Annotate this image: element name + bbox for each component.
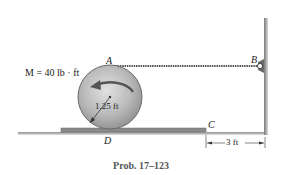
point-d-label: D [104,136,111,146]
radius-label: 1.25 ft [95,102,119,111]
figure-caption: Prob. 17–123 [0,160,282,171]
wall [264,18,268,135]
ground [18,132,267,135]
plank [61,128,206,132]
distance-label: 3 ft [226,138,238,147]
diagram-canvas [0,0,282,175]
point-b-label: B [251,55,257,65]
point-a-label: A [106,56,112,66]
moment-label: M = 40 lb · ft [25,68,79,78]
point-c-label: C [208,120,215,130]
pin-support-icon [257,59,264,73]
